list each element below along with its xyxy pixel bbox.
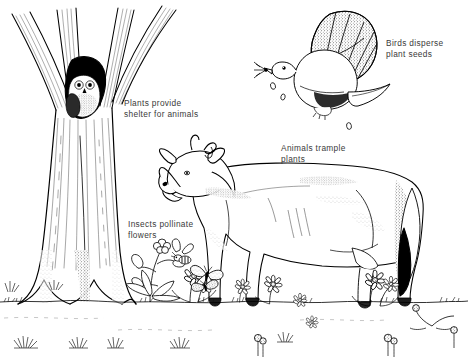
caption-birds-disperse-seeds: Birds disperse plant seeds (386, 38, 443, 61)
illustration-canvas: Plants provide shelter for animals Birds… (0, 0, 468, 364)
caption-insects-pollinate-flowers: Insects pollinate flowers (128, 219, 193, 242)
caption-animals-trample-plants: Animals trample plants (281, 143, 346, 166)
caption-plants-provide-shelter: Plants provide shelter for animals (124, 98, 198, 121)
